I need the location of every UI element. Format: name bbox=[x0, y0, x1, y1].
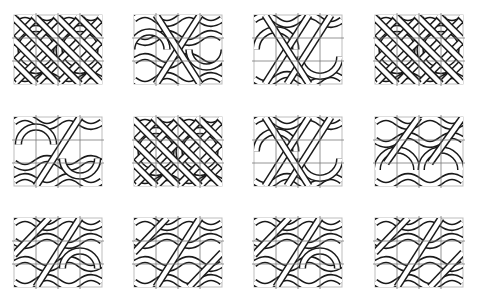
knotwork-pattern bbox=[375, 218, 463, 287]
knot-panel-r2c3 bbox=[254, 117, 342, 186]
knot-panel-r3c3 bbox=[254, 218, 342, 287]
knot-panel-r3c4 bbox=[375, 218, 463, 287]
knotwork-pattern bbox=[134, 117, 222, 186]
knot-panel-r3c1 bbox=[14, 218, 102, 287]
knot-panel-r2c2 bbox=[134, 117, 222, 186]
knotwork-pattern bbox=[254, 117, 342, 186]
knotwork-pattern bbox=[254, 15, 342, 84]
knot-panel-r1c3 bbox=[254, 15, 342, 84]
knot-panel-r1c1 bbox=[14, 15, 102, 84]
knotwork-pattern bbox=[14, 15, 102, 84]
knotwork-pattern bbox=[375, 15, 463, 84]
knot-panel-r1c4 bbox=[375, 15, 463, 84]
knot-panel-r1c2 bbox=[134, 15, 222, 84]
knotwork-pattern bbox=[134, 218, 222, 287]
knotwork-pattern bbox=[254, 218, 342, 287]
knot-panel-r2c1 bbox=[14, 117, 102, 186]
knot-panel-r2c4 bbox=[375, 117, 463, 186]
knotwork-pattern bbox=[134, 15, 222, 84]
knot-panel-r3c2 bbox=[134, 218, 222, 287]
knotwork-pattern bbox=[14, 218, 102, 287]
knotwork-pattern bbox=[375, 117, 463, 186]
knotwork-pattern bbox=[14, 117, 102, 186]
